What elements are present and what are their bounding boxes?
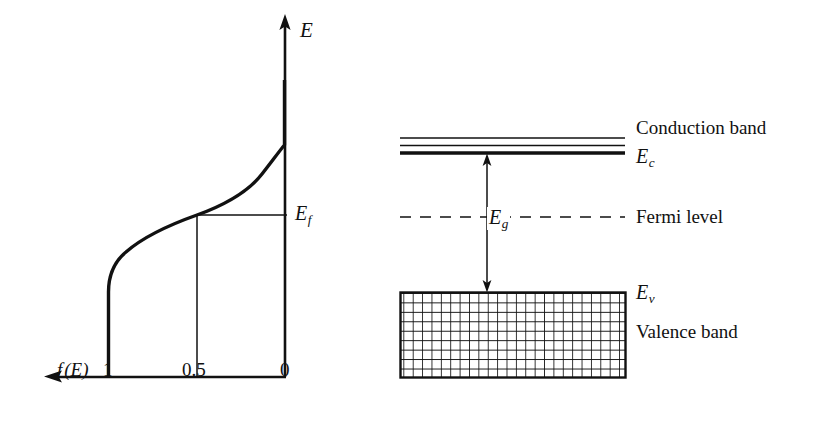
- valence-band-edge-label-base: E: [636, 281, 648, 303]
- conduction-band-edge-label-base: E: [636, 145, 648, 167]
- conduction-band-edge-label-subscript: c: [649, 155, 655, 170]
- x-tick-label-0: 0: [280, 360, 290, 379]
- fermi-level-label: Fermi level: [636, 207, 723, 226]
- x-tick-label-1: 1: [103, 360, 113, 379]
- left-plot-group: [44, 14, 291, 383]
- occupation-axis-label-f: f: [57, 359, 62, 380]
- band-diagram-figure: E f(E) 1 0.5 0 Ef Conduction band Ec Fer…: [0, 0, 818, 425]
- conduction-band-edge-label: Ec: [636, 146, 655, 169]
- energy-axis: [279, 14, 290, 377]
- fermi-energy-label: Ef: [295, 203, 311, 226]
- occupation-axis-label: f(E): [57, 360, 89, 379]
- valence-band-edge-label-subscript: v: [649, 291, 655, 306]
- energy-axis-label: E: [300, 20, 313, 41]
- valence-band-label: Valence band: [636, 322, 738, 341]
- fermi-energy-label-subscript: f: [308, 212, 312, 227]
- band-gap-label: Eg: [487, 207, 510, 230]
- fermi-energy-label-base: E: [295, 202, 307, 224]
- valence-band-edge-label: Ev: [636, 282, 655, 305]
- conduction-band-label: Conduction band: [636, 118, 766, 137]
- band-diagram-group: [400, 138, 626, 378]
- x-tick-label-0.5: 0.5: [182, 360, 206, 379]
- band-gap-label-base: E: [489, 206, 501, 228]
- band-gap-label-subscript: g: [502, 216, 509, 231]
- valence-band-rect: [401, 293, 626, 378]
- occupation-axis-label-arg: (E): [64, 359, 88, 380]
